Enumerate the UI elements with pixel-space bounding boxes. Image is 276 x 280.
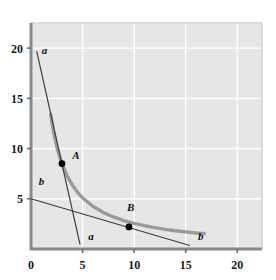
economics-indifference-curve-chart: AB aabb 051015205101520 (0, 0, 276, 280)
label-b-right: b (198, 230, 204, 242)
point-A-marker (59, 160, 66, 167)
x-tick-label: 5 (80, 258, 86, 272)
x-tick-label: 20 (231, 258, 243, 272)
y-tick-label: 10 (11, 142, 23, 156)
label-a-bottom: a (88, 230, 94, 242)
y-tick-label: 5 (17, 192, 23, 206)
x-tick-label: 15 (180, 258, 192, 272)
x-tick-label: 0 (28, 258, 34, 272)
point-A-label: A (71, 149, 79, 161)
y-tick-label: 15 (11, 92, 23, 106)
y-tick-label: 20 (11, 42, 23, 56)
x-tick-label: 10 (128, 258, 140, 272)
label-a-top: a (42, 44, 48, 56)
label-b-left: b (39, 175, 45, 187)
plot-background (31, 24, 262, 249)
chart-figure: AB aabb 051015205101520 (0, 0, 276, 280)
point-B-marker (126, 224, 133, 231)
point-B-label: B (126, 201, 134, 213)
chart-canvas: AB aabb 051015205101520 (0, 0, 276, 280)
